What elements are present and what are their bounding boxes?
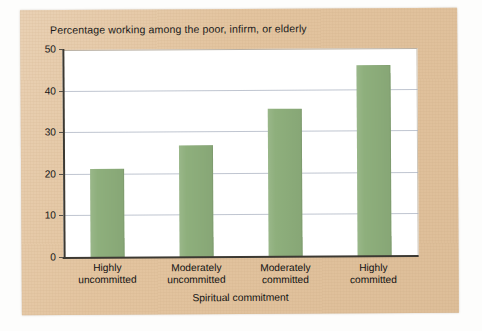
x-category-label-line: committed (329, 273, 418, 285)
bar (90, 168, 125, 258)
x-category-label-line: Highly (63, 262, 152, 274)
x-category-label: Moderatelyuncommitted (152, 262, 241, 286)
bar (179, 145, 214, 258)
x-category-label: Moderatelycommitted (240, 262, 329, 286)
x-category-label-line: Moderately (152, 262, 241, 274)
y-tick-mark (59, 91, 63, 92)
y-tick-mark (59, 132, 63, 133)
y-tick-mark (59, 174, 63, 175)
bar (356, 65, 391, 257)
x-category-label-line: Moderately (240, 262, 329, 274)
x-category-label-line: committed (241, 273, 330, 285)
y-tick-label: 50 (22, 43, 56, 54)
y-tick-mark (59, 215, 63, 216)
x-category-label: Highlycommitted (329, 262, 418, 286)
chart-title: Percentage working among the poor, infir… (50, 22, 307, 36)
y-tick-mark (59, 257, 63, 258)
x-category-label: Highlyuncommitted (63, 262, 152, 286)
y-tick-label: 40 (22, 85, 56, 96)
x-axis-title: Spiritual commitment (63, 291, 418, 304)
y-tick-label: 20 (22, 168, 56, 179)
screenshot-root: Percentage working among the poor, infir… (0, 0, 482, 331)
bar (268, 109, 303, 257)
y-tick-label: 30 (22, 127, 56, 138)
plot-area (62, 48, 418, 258)
x-category-label-line: Highly (329, 262, 418, 274)
x-category-label-line: uncommitted (63, 273, 152, 285)
x-category-label-line: uncommitted (152, 273, 241, 285)
y-tick-label: 10 (22, 210, 56, 221)
y-tick-label: 0 (22, 251, 56, 262)
y-tick-mark (59, 49, 63, 50)
y-axis-line (62, 49, 65, 259)
